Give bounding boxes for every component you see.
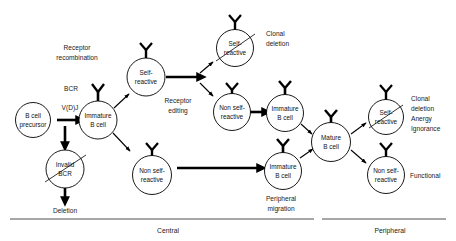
node-label-line1: Mature	[321, 134, 341, 141]
node-label-line2: BCR	[58, 170, 72, 177]
node-non-self-reactive-edited[interactable]: Non self- reactive	[214, 94, 251, 131]
node-label-line1: B cell	[25, 112, 41, 119]
node-immature-b-cell-upper-right[interactable]: Immature B cell	[267, 95, 304, 132]
peripheral-compartment-label: Peripheral	[375, 227, 406, 235]
arrow-mature-to-self-reactive-peripheral	[351, 123, 366, 134]
node-label-line1: Non self-	[139, 167, 165, 174]
annotation-line2: deletion	[411, 105, 434, 112]
node-label-line1: Immature	[85, 112, 112, 119]
node-non-self-reactive-central[interactable]: Non self- reactive	[133, 156, 172, 195]
annotation-clonal-deletion-anergy-ignorance: Clonal deletion Anergy Ignorance	[411, 95, 441, 133]
annotation-line1: Clonal	[411, 95, 430, 102]
receptor-icon-immature-lower-right	[277, 139, 289, 154]
annotation-bcr: BCR	[64, 85, 78, 92]
node-label-line2: B cell	[277, 114, 293, 121]
node-invalid-bcr[interactable]: Invalid BCR	[45, 150, 86, 188]
node-self-reactive-deleted[interactable]: Self- reactive	[216, 30, 255, 67]
receptor-icon-self-reactive-deleted	[229, 15, 241, 30]
node-self-reactive-peripheral[interactable]: Self- reactive	[369, 100, 404, 135]
arrow-branch-to-self-reactive-deleted	[200, 62, 213, 73]
central-compartment-label: Central	[157, 227, 179, 234]
node-label-line2: reactive	[135, 78, 158, 85]
b-cell-development-diagram: B cell precursor Immature B cell Invalid…	[0, 0, 456, 241]
node-b-cell-precursor[interactable]: B cell precursor	[16, 103, 51, 138]
node-mature-b-cell[interactable]: Mature B cell	[312, 123, 351, 162]
arrow-branch-to-non-self-reactive-edited	[200, 83, 213, 96]
annotation-functional: Functional	[410, 172, 441, 179]
annotation-deletion: Deletion	[53, 207, 78, 214]
node-label-line2: B cell	[90, 121, 106, 128]
annotation-line2: migration	[267, 205, 294, 213]
annotation-line4: Ignorance	[411, 125, 441, 133]
node-label-line1: Immature	[270, 163, 297, 170]
node-label-line1: Self-	[228, 40, 241, 47]
node-label-line2: precursor	[20, 121, 48, 129]
node-label-line2: B cell	[275, 172, 291, 179]
receptor-icon-self-reactive-peripheral	[380, 85, 392, 100]
arrow-immature-upper-to-mature	[301, 124, 312, 134]
annotation-line1: Peripheral	[266, 195, 297, 203]
bcr-receptor-icon	[92, 84, 104, 101]
node-label-line1: Self-	[379, 109, 392, 116]
node-self-reactive-central[interactable]: Self- reactive	[127, 58, 165, 96]
annotation-line1: Receptor	[64, 44, 92, 52]
arrow-immature-lower-to-mature	[300, 149, 313, 158]
annotation-receptor-recombination: Receptor recombination	[56, 44, 98, 61]
node-label-line2: reactive	[375, 118, 398, 125]
arrow-mature-to-non-self-reactive-peripheral	[351, 150, 366, 163]
annotation-line2: editing	[168, 107, 188, 115]
receptor-icon-non-self-reactive-peripheral	[380, 143, 392, 158]
node-label-line2: reactive	[141, 176, 164, 183]
annotation-clonal-deletion-top: Clonal deletion	[266, 30, 289, 47]
node-label-line1: Self-	[139, 69, 152, 76]
receptor-icon-self-reactive-central	[140, 43, 152, 58]
annotation-line1: Clonal	[266, 30, 285, 37]
receptor-icon-immature-upper-right	[279, 81, 291, 96]
node-label-line1: Non self-	[219, 104, 245, 111]
annotation-line1: Receptor	[165, 97, 193, 105]
annotation-vdj: V(D)J	[62, 104, 79, 112]
annotation-line2: recombination	[56, 54, 98, 61]
node-label-line1: Immature	[272, 105, 299, 112]
node-immature-b-cell-central[interactable]: Immature B cell	[79, 101, 117, 139]
annotation-line3: Anergy	[411, 115, 433, 123]
node-label-line2: reactive	[375, 176, 398, 183]
node-non-self-reactive-peripheral[interactable]: Non self- reactive	[368, 157, 405, 194]
annotation-receptor-editing: Receptor editing	[165, 97, 193, 115]
arrow-immature-to-self-reactive	[114, 94, 129, 108]
receptor-icon-non-self-reactive-central	[146, 143, 158, 157]
node-immature-b-cell-lower-right[interactable]: Immature B cell	[265, 153, 302, 190]
node-label-line2: reactive	[221, 113, 244, 120]
annotation-line2: deletion	[266, 40, 289, 47]
annotation-peripheral-migration: Peripheral migration	[266, 195, 297, 213]
node-label-line1: Non self-	[373, 167, 399, 174]
node-label-line2: B cell	[323, 143, 339, 150]
arrow-immature-to-non-self-reactive	[113, 133, 130, 151]
figure-canvas: B cell precursor Immature B cell Invalid…	[0, 0, 456, 241]
node-label-line2: reactive	[224, 49, 247, 56]
